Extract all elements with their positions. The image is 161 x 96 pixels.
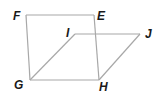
segment-FG [26,15,30,80]
segment-GI [30,34,75,80]
label-E: E [97,9,106,23]
segment-JH [99,34,140,80]
segment-EH [94,15,99,80]
label-I: I [66,26,70,40]
label-F: F [13,9,21,23]
label-J: J [145,27,152,41]
label-G: G [14,78,23,92]
geometry-diagram: F E I J G H [0,0,161,96]
label-H: H [99,80,108,94]
